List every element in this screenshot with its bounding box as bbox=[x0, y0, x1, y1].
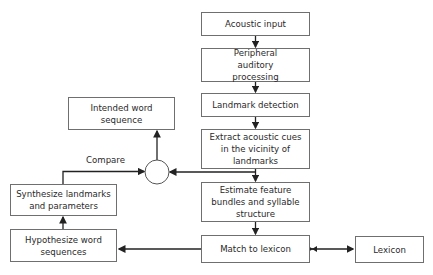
landmark-detection-label: Landmark detection bbox=[212, 99, 298, 111]
extract-cues-box: Extract acoustic cues in the vicinity of… bbox=[201, 129, 310, 169]
estimate-features-label: Estimate feature bundles and syllable st… bbox=[206, 184, 305, 220]
intended-word-label: Intended word sequence bbox=[83, 102, 160, 126]
hypothesize-label: Hypothesize word sequences bbox=[21, 234, 106, 258]
synthesize-box: Synthesize landmarks and parameters bbox=[10, 184, 117, 216]
estimate-features-box: Estimate feature bundles and syllable st… bbox=[201, 182, 310, 222]
lexicon-box: Lexicon bbox=[355, 236, 424, 263]
intended-word-box: Intended word sequence bbox=[68, 97, 175, 130]
lexicon-label: Lexicon bbox=[373, 244, 406, 256]
acoustic-input-box: Acoustic input bbox=[201, 12, 310, 36]
compare-node bbox=[145, 160, 169, 184]
synthesize-label: Synthesize landmarks and parameters bbox=[15, 188, 112, 212]
extract-cues-label: Extract acoustic cues in the vicinity of… bbox=[206, 131, 305, 167]
hypothesize-box: Hypothesize word sequences bbox=[10, 229, 117, 262]
match-lexicon-box: Match to lexicon bbox=[201, 235, 310, 263]
acoustic-input-label: Acoustic input bbox=[225, 18, 286, 30]
landmark-detection-box: Landmark detection bbox=[201, 93, 310, 117]
match-lexicon-label: Match to lexicon bbox=[220, 243, 291, 255]
compare-label: Compare bbox=[86, 155, 125, 165]
peripheral-processing-label: Peripheral auditory processing bbox=[216, 47, 295, 83]
peripheral-processing-box: Peripheral auditory processing bbox=[201, 48, 310, 82]
